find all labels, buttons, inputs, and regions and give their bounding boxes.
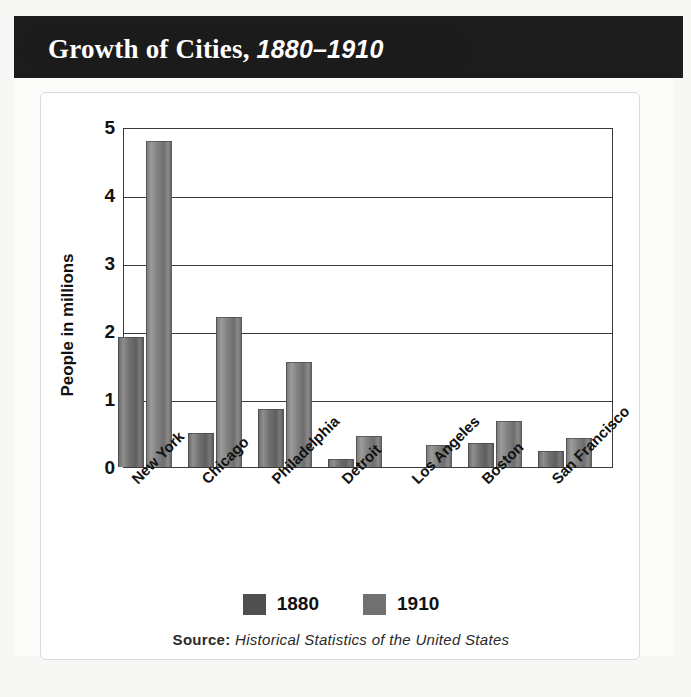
page-background: Growth of Cities, 1880–1910 People in mi… (0, 0, 691, 697)
legend-label-1910: 1910 (397, 593, 439, 615)
y-axis-tick: 3 (75, 254, 115, 273)
page-title-main: Growth of Cities, (48, 34, 250, 64)
bar-new-york-1910 (146, 141, 172, 467)
legend-item-1880: 1880 (243, 593, 319, 615)
legend-swatch-1910 (363, 594, 386, 615)
y-axis-tick: 4 (75, 186, 115, 205)
page-title: Growth of Cities, 1880–1910 (48, 34, 384, 65)
y-axis-tick: 2 (75, 322, 115, 341)
y-axis-tick: 5 (75, 118, 115, 137)
y-axis-tick: 1 (75, 390, 115, 409)
title-banner: Growth of Cities, 1880–1910 (22, 27, 469, 72)
source-title: Historical Statistics of the United Stat… (235, 631, 509, 648)
legend-label-1880: 1880 (277, 593, 319, 615)
gridline (124, 197, 612, 198)
chart-plot-area: People in millions 012345 New YorkChicag… (41, 93, 641, 661)
legend-swatch-1880 (243, 594, 266, 615)
bar-philadelphia-1880 (258, 409, 284, 467)
source-label: Source: (173, 631, 231, 648)
y-axis-tick: 0 (75, 458, 115, 477)
source-note: Source: Historical Statistics of the Uni… (41, 631, 641, 648)
legend-item-1910: 1910 (363, 593, 439, 615)
plot-frame (123, 128, 613, 468)
gridline (124, 333, 612, 334)
gridline (124, 401, 612, 402)
gridline (124, 265, 612, 266)
bar-new-york-1880 (118, 337, 144, 467)
chart-legend: 18801910 (41, 593, 641, 615)
page-title-years: 1880–1910 (257, 35, 384, 63)
chart-card: People in millions 012345 New YorkChicag… (40, 92, 640, 660)
